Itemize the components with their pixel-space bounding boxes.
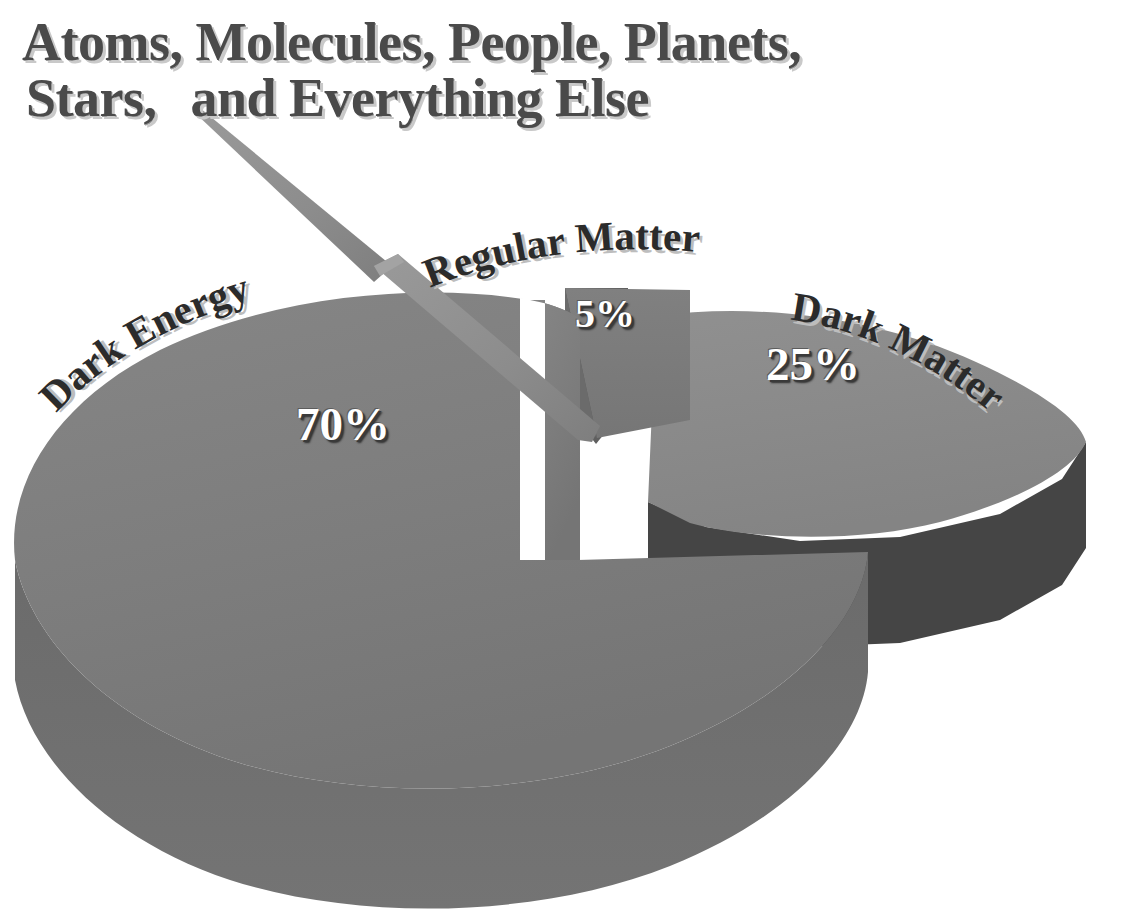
pointer-arrow-upper-segment: [193, 108, 392, 282]
chart-canvas: Atoms, Molecules, People, Planets, Stars…: [0, 0, 1135, 913]
pie-chart-graphic: [0, 0, 1135, 913]
slice-dark-energy-notch: [520, 298, 545, 560]
